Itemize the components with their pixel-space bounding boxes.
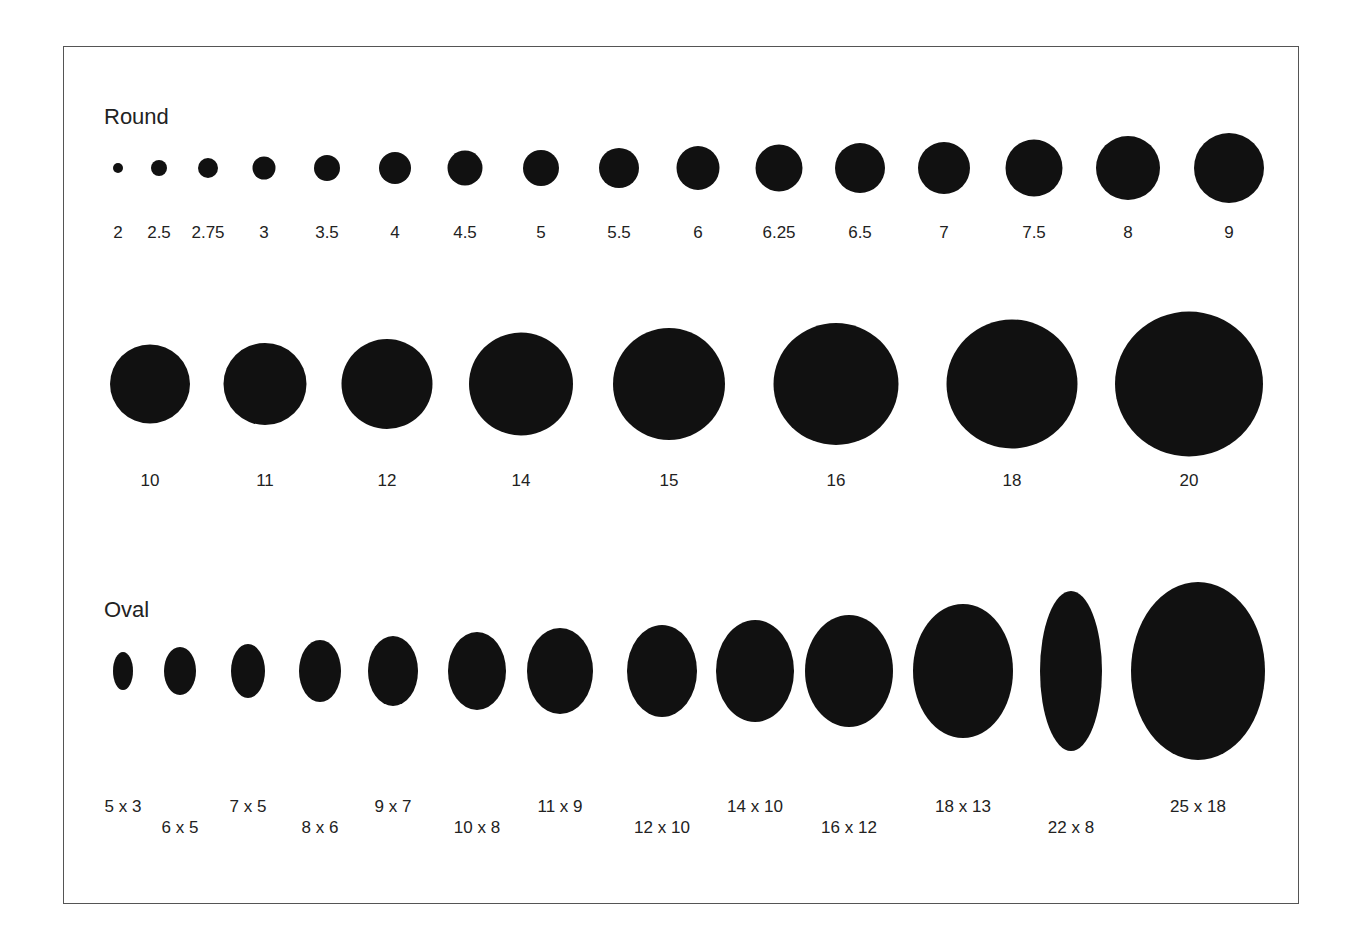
oval-shape <box>113 652 133 690</box>
oval-shape <box>627 625 697 717</box>
round-shape <box>224 343 307 425</box>
round-shape <box>1006 140 1063 197</box>
round-size-label: 6 <box>693 223 702 243</box>
oval-size-label: 10 x 8 <box>454 818 500 838</box>
oval-shape <box>231 644 265 698</box>
round-size-label: 18 <box>1003 471 1022 491</box>
round-shape <box>599 148 639 188</box>
round-size-label: 14 <box>512 471 531 491</box>
oval-shape <box>299 640 341 702</box>
round-size-label: 7 <box>939 223 948 243</box>
round-shape <box>469 333 573 436</box>
round-size-label: 9 <box>1224 223 1233 243</box>
oval-size-label: 16 x 12 <box>821 818 877 838</box>
oval-size-label: 11 x 9 <box>537 797 582 817</box>
round-size-label: 12 <box>378 471 397 491</box>
oval-shape <box>164 647 196 695</box>
round-shape <box>1096 136 1160 200</box>
round-shape <box>113 163 123 173</box>
round-size-label: 3 <box>259 223 268 243</box>
round-size-label: 8 <box>1123 223 1132 243</box>
oval-size-label: 14 x 10 <box>727 797 783 817</box>
oval-size-label: 18 x 13 <box>935 797 991 817</box>
round-size-label: 3.5 <box>315 223 339 243</box>
oval-shape <box>716 620 794 722</box>
round-shape <box>342 339 433 429</box>
round-shape <box>314 155 340 181</box>
round-size-label: 4 <box>390 223 399 243</box>
round-shape <box>613 328 725 440</box>
oval-shape <box>527 628 593 714</box>
oval-shape <box>1040 591 1102 751</box>
round-size-label: 6.25 <box>762 223 795 243</box>
round-size-label: 2.75 <box>191 223 224 243</box>
oval-size-label: 25 x 18 <box>1170 797 1226 817</box>
round-shape <box>198 158 218 178</box>
round-shape <box>1194 133 1264 203</box>
oval-shape <box>368 636 418 706</box>
round-size-label: 11 <box>256 471 274 491</box>
oval-size-label: 6 x 5 <box>162 818 199 838</box>
oval-size-label: 9 x 7 <box>375 797 412 817</box>
round-shape <box>151 160 167 176</box>
round-shape <box>677 146 720 190</box>
round-shape <box>756 145 803 192</box>
round-shape <box>379 152 411 184</box>
round-shape <box>253 157 276 180</box>
round-shape <box>1115 312 1263 457</box>
oval-shape <box>805 615 893 727</box>
round-size-label: 5.5 <box>607 223 631 243</box>
round-shape <box>835 143 885 193</box>
round-size-label: 6.5 <box>848 223 872 243</box>
oval-shape <box>913 604 1013 738</box>
oval-size-label: 7 x 5 <box>230 797 267 817</box>
oval-heading: Oval <box>104 597 149 623</box>
oval-size-label: 5 x 3 <box>105 797 142 817</box>
round-heading: Round <box>104 104 169 130</box>
round-size-label: 4.5 <box>453 223 477 243</box>
round-shape <box>110 345 190 424</box>
round-size-label: 5 <box>536 223 545 243</box>
round-shape <box>947 320 1078 449</box>
oval-size-label: 12 x 10 <box>634 818 690 838</box>
round-size-label: 7.5 <box>1022 223 1046 243</box>
round-size-label: 2 <box>113 223 122 243</box>
round-size-label: 15 <box>660 471 679 491</box>
oval-size-label: 8 x 6 <box>302 818 339 838</box>
round-size-label: 10 <box>141 471 160 491</box>
round-size-label: 16 <box>827 471 846 491</box>
oval-shape <box>448 632 506 710</box>
oval-size-label: 22 x 8 <box>1048 818 1094 838</box>
oval-shape <box>1131 582 1265 760</box>
round-size-label: 20 <box>1180 471 1199 491</box>
round-size-label: 2.5 <box>147 223 171 243</box>
round-shape <box>918 142 970 194</box>
round-shape <box>774 323 899 445</box>
round-shape <box>448 151 483 186</box>
round-shape <box>523 150 559 186</box>
